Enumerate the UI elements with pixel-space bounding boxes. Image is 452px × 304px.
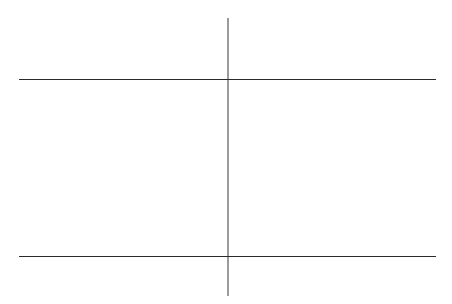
distribution-plot [0,0,452,304]
statistics-figure [0,0,452,304]
